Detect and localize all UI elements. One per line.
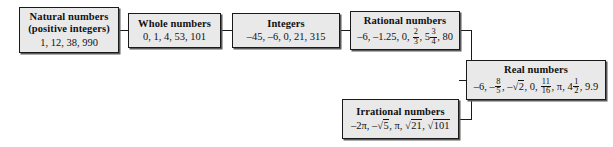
- fraction-numerator: 1: [573, 78, 579, 87]
- rational-examples-mid: , 5: [419, 31, 430, 42]
- box-natural-examples: 1, 12, 38, 990: [40, 37, 98, 49]
- radical-sign-icon: √: [405, 120, 411, 131]
- box-whole-title: Whole numbers: [138, 18, 211, 30]
- irrational-examples-mid: , π,: [389, 120, 405, 131]
- real-examples-p3: , 0,: [524, 81, 540, 92]
- box-rational-examples: –6, –1.25, 0, 23, 534, 80: [357, 28, 453, 46]
- box-irrational-numbers: Irrational numbers –2π, –√5, π, √21, √10…: [342, 99, 459, 139]
- box-real-numbers: Real numbers –6, –85, –√2, 0, 1116, π, 4…: [466, 60, 606, 100]
- rational-examples-prefix: –6, –1.25, 0,: [357, 31, 412, 42]
- fraction-numerator: 11: [541, 78, 551, 87]
- box-irrational-examples: –2π, –√5, π, √21, √101: [351, 120, 450, 132]
- connector-whole-to-integers: [221, 30, 232, 31]
- real-examples-p5: , 9.9: [580, 81, 598, 92]
- box-irrational-title: Irrational numbers: [356, 106, 444, 118]
- real-fraction-eleven-sixteenths: 1116: [541, 78, 551, 96]
- box-whole-numbers: Whole numbers 0, 1, 4, 53, 101: [128, 13, 221, 48]
- real-examples-p1: –6, –: [474, 81, 495, 92]
- box-rational-title: Rational numbers: [364, 15, 446, 27]
- fraction-denominator: 5: [495, 86, 501, 96]
- box-real-examples: –6, –85, –√2, 0, 1116, π, 412, 9.9: [474, 78, 598, 96]
- radicand: 101: [433, 119, 450, 131]
- fraction-denominator: 4: [430, 37, 436, 47]
- fraction-numerator: 3: [430, 28, 436, 37]
- box-whole-examples: 0, 1, 4, 53, 101: [143, 31, 206, 43]
- box-integers-examples: –45, –6, 0, 21, 315: [247, 31, 326, 43]
- real-examples-p4: , π, 4: [552, 81, 573, 92]
- fraction-denominator: 16: [541, 86, 551, 96]
- connector-natural-to-whole: [119, 30, 128, 31]
- rational-fraction-three-quarters: 34: [430, 28, 436, 46]
- box-natural-numbers: Natural numbers (positive integers) 1, 1…: [19, 7, 119, 53]
- box-natural-title-line2: (positive integers): [28, 23, 110, 35]
- rational-examples-suffix: , 80: [437, 31, 453, 42]
- fraction-denominator: 3: [413, 37, 419, 47]
- real-examples-p2: , –: [502, 81, 513, 92]
- irrational-examples-prefix: –2π, –: [351, 120, 377, 131]
- real-fraction-one-half: 12: [573, 78, 579, 96]
- fraction-numerator: 2: [413, 28, 419, 37]
- rational-fraction-two-thirds: 23: [413, 28, 419, 46]
- radical-sqrt-2: √2: [512, 80, 524, 92]
- box-rational-numbers: Rational numbers –6, –1.25, 0, 23, 534, …: [350, 11, 460, 50]
- box-integers: Integers –45, –6, 0, 21, 315: [232, 13, 340, 48]
- radical-sqrt-21: √21: [405, 119, 422, 131]
- fraction-denominator: 2: [573, 86, 579, 96]
- connector-integers-to-rational: [340, 30, 350, 31]
- box-integers-title: Integers: [267, 18, 305, 30]
- box-natural-title-line1: Natural numbers: [30, 11, 109, 23]
- number-system-diagram: Natural numbers (positive integers) 1, 1…: [0, 0, 613, 147]
- radical-sqrt-5: √5: [377, 119, 389, 131]
- real-fraction-eight-fifths: 85: [495, 78, 501, 96]
- fraction-numerator: 8: [495, 78, 501, 87]
- radicand: 21: [411, 119, 423, 131]
- box-real-title: Real numbers: [504, 64, 568, 76]
- radical-sqrt-101: √101: [428, 119, 451, 131]
